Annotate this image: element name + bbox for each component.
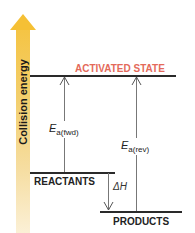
reactants-label: REACTANTS [34, 176, 95, 187]
ea-fwd-label: Ea(fwd) [49, 121, 79, 138]
reactants-line [30, 172, 115, 174]
activated-state-line [30, 75, 176, 77]
products-label: PRODUCTS [113, 216, 169, 227]
axis-label: Collision energy [17, 59, 29, 145]
products-line [100, 211, 182, 213]
delta-h-label: ΔH [113, 181, 127, 192]
ea-rev-label: Ea(rev) [121, 138, 149, 155]
arrow-up-icon [10, 14, 36, 30]
arrowhead-down-icon [103, 201, 114, 211]
activated-state-label: ACTIVATED STATE [75, 63, 165, 74]
arrowhead-up-icon [131, 76, 142, 86]
arrowhead-up-icon [59, 76, 70, 86]
